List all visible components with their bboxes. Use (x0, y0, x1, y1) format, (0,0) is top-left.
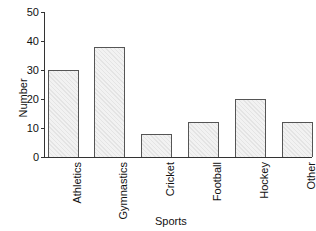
y-tick (41, 70, 45, 71)
x-tick-label-wrap: Cricket (141, 162, 172, 222)
bar-chart: 0 10 20 30 40 50 Number Sports Athletics… (0, 0, 316, 231)
x-tick-label-wrap: Gymnastics (94, 162, 125, 222)
y-tick-label: 50 (17, 6, 39, 18)
y-tick (41, 12, 45, 13)
x-tick-label-wrap: Athletics (48, 162, 79, 222)
x-tick-label-wrap: Other (282, 162, 313, 222)
x-tick-label: Football (211, 162, 223, 201)
bar-gymnastics (94, 47, 125, 157)
y-axis-title: Number (17, 73, 29, 123)
y-tick-label: 10 (17, 122, 39, 134)
bar-other (282, 122, 313, 157)
x-tick-label: Other (305, 162, 316, 190)
y-tick-label: 40 (17, 35, 39, 47)
bar-hockey (235, 99, 266, 157)
x-tick-label: Athletics (71, 162, 83, 204)
y-axis (44, 12, 45, 158)
y-tick (41, 41, 45, 42)
y-tick-label: 0 (17, 151, 39, 163)
x-tick-label-wrap: Football (188, 162, 219, 222)
bar-athletics (48, 70, 79, 157)
x-tick-label: Hockey (258, 162, 270, 199)
x-tick-label-wrap: Hockey (235, 162, 266, 222)
bar-football (188, 122, 219, 157)
y-tick (41, 128, 45, 129)
x-tick-label: Gymnastics (117, 162, 129, 219)
x-tick-label: Cricket (164, 162, 176, 196)
bar-cricket (141, 134, 172, 157)
y-tick (41, 157, 45, 158)
y-tick (41, 99, 45, 100)
x-axis (44, 157, 312, 158)
